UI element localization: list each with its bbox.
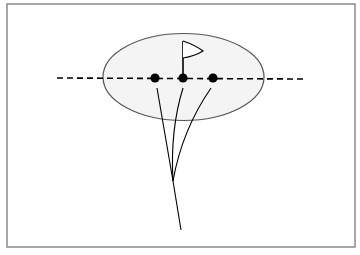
ball-left-icon	[150, 73, 159, 82]
ball-center-icon	[178, 73, 187, 82]
ball-right-icon	[208, 73, 217, 82]
golf-green-diagram	[0, 0, 360, 255]
